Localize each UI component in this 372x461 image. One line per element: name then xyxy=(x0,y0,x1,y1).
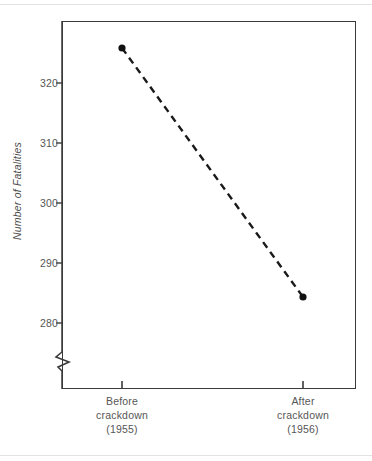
y-tick-label-320: 320 xyxy=(24,78,58,89)
y-tick-label-300: 300 xyxy=(24,198,58,209)
x-label-after-line3: (1956) xyxy=(243,422,363,436)
page-canvas: 320 310 300 290 280 Number of Fatalities… xyxy=(0,0,372,461)
data-point-before-crackdown[interactable] xyxy=(118,44,125,51)
x-label-after-line1: After xyxy=(243,394,363,408)
x-axis-ticks xyxy=(122,381,303,389)
x-label-after-crackdown: After crackdown (1956) xyxy=(243,394,363,436)
x-label-before-line3: (1955) xyxy=(62,422,182,436)
y-axis-title: Number of Fatalities xyxy=(11,111,23,271)
x-label-before-line1: Before xyxy=(62,394,182,408)
y-tick-label-290: 290 xyxy=(24,258,58,269)
data-point-after-crackdown[interactable] xyxy=(299,293,306,300)
data-line-fatalities xyxy=(122,48,303,297)
y-tick-label-280: 280 xyxy=(24,318,58,329)
y-tick-label-310: 310 xyxy=(24,138,58,149)
line-chart: 320 310 300 290 280 Number of Fatalities… xyxy=(0,0,372,461)
x-label-before-line2: crackdown xyxy=(62,408,182,422)
x-axis-tick-labels: Before crackdown (1955) After crackdown … xyxy=(0,394,372,456)
x-label-after-line2: crackdown xyxy=(243,408,363,422)
x-label-before-crackdown: Before crackdown (1955) xyxy=(62,394,182,436)
